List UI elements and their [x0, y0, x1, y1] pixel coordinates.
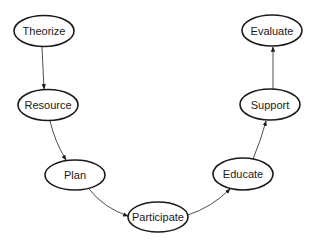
- node-evaluate: Evaluate: [242, 15, 302, 46]
- node-label: Resource: [24, 99, 71, 111]
- edge-resource-plan: [50, 121, 66, 160]
- node-label: Theorize: [23, 25, 66, 37]
- node-label: Educate: [223, 168, 263, 180]
- node-plan: Plan: [45, 160, 105, 190]
- edge-participate-educate: [188, 189, 230, 215]
- process-diagram: Theorize Resource Plan Participate Educa…: [0, 0, 317, 246]
- edge-plan-participate: [89, 189, 128, 216]
- node-theorize: Theorize: [14, 16, 74, 47]
- node-educate: Educate: [213, 158, 273, 190]
- node-support: Support: [240, 89, 300, 120]
- node-label: Participate: [132, 211, 184, 223]
- node-resource: Resource: [18, 90, 78, 121]
- node-label: Evaluate: [251, 25, 294, 37]
- node-label: Plan: [64, 169, 86, 181]
- node-label: Support: [251, 99, 290, 111]
- node-participate: Participate: [128, 202, 188, 232]
- edge-educate-support: [253, 121, 266, 159]
- edge-theorize-resource: [42, 47, 44, 89]
